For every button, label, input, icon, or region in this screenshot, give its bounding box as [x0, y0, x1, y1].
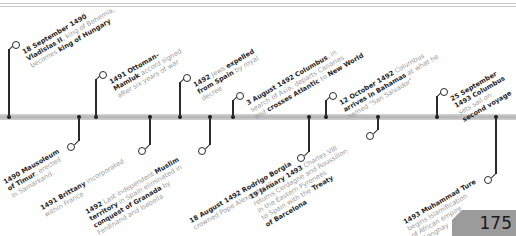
event-marker-icon — [236, 92, 244, 100]
event-marker-icon — [366, 132, 374, 140]
page-number-badge: 175 — [452, 210, 516, 236]
event-label: 1490 Mausoleumof Timur, erectedin Samark… — [2, 147, 69, 199]
event-marker-icon — [12, 41, 20, 49]
event-stem — [377, 117, 378, 130]
top-rule — [0, 3, 516, 4]
event-label: 1492 Last independent Muslimterritory in… — [84, 155, 192, 236]
event-marker-icon — [440, 88, 448, 96]
event-marker-icon — [183, 74, 191, 82]
event-stem — [209, 117, 210, 145]
event-marker-icon — [67, 143, 75, 151]
top-rule-secondary — [0, 6, 516, 7]
page-number: 175 — [480, 213, 512, 233]
event-marker-icon — [329, 92, 337, 100]
event-stem — [149, 117, 150, 145]
event-marker-icon — [138, 147, 146, 155]
event-marker-icon — [484, 176, 492, 184]
event-text: search of Asia, departs Canaries — [249, 54, 345, 114]
event-stem — [232, 100, 233, 117]
event-label: 1491 Ottoman–Mamluk accord signedafter s… — [108, 40, 187, 99]
event-stem — [325, 100, 326, 117]
event-stem — [436, 96, 437, 117]
event-marker-icon — [198, 147, 206, 155]
event-label-line: Vladislas II, king of Bohemia, — [25, 6, 116, 63]
event-stem — [308, 117, 309, 152]
event-stem — [95, 79, 96, 117]
event-stem — [78, 117, 79, 141]
event-stem — [8, 49, 9, 117]
event-marker-icon — [99, 71, 107, 79]
event-stem — [495, 117, 496, 174]
event-stem — [179, 82, 180, 117]
event-label: 18 September 1490Vladislas II, king of B… — [21, 0, 120, 70]
